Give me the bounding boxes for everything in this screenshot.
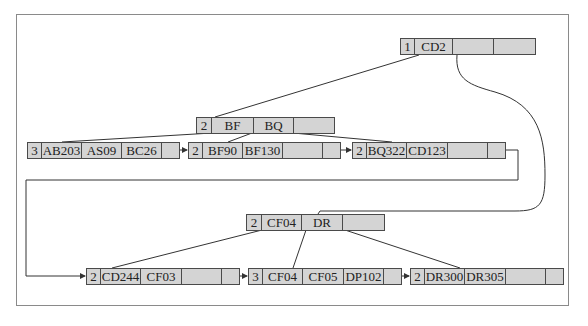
key: BQ322: [367, 143, 407, 158]
key: BF: [212, 118, 254, 133]
key: DR305: [465, 269, 506, 284]
next-pointer: [384, 269, 401, 284]
next-pointer: [323, 143, 340, 158]
key-count: 2: [87, 269, 101, 284]
key: [494, 39, 535, 54]
edge-root-right: [318, 55, 545, 214]
key: CD2: [415, 39, 453, 54]
key: BF130: [243, 143, 283, 158]
key: AS09: [82, 143, 122, 158]
leaf-node-5: 3 CF04 CF05 DP102: [248, 268, 402, 285]
key: BC26: [122, 143, 162, 158]
key: AB203: [42, 143, 82, 158]
key: CF04: [262, 215, 302, 230]
edge-right-leaf6: [345, 230, 460, 268]
internal-node-left: 2 BF BQ: [196, 117, 335, 134]
key: BF90: [203, 143, 243, 158]
key: [182, 269, 222, 284]
key-count: 2: [353, 143, 367, 158]
edge-right-leaf4: [112, 230, 262, 268]
edge-left-leaf3: [293, 133, 392, 142]
key: DP102: [344, 269, 384, 284]
key-count: 2: [411, 269, 425, 284]
leaf-node-6: 2 DR300 DR305: [410, 268, 564, 285]
key-count: 1: [401, 39, 415, 54]
next-pointer: [488, 143, 505, 158]
edge-left-leaf2: [228, 133, 252, 142]
root-node: 1 CD2: [400, 38, 536, 55]
key-count: 2: [189, 143, 203, 158]
key: CD244: [101, 269, 141, 284]
leaf-node-2: 2 BF90 BF130: [188, 142, 341, 159]
next-pointer: [546, 269, 563, 284]
key: CD123: [407, 143, 448, 158]
key: [448, 143, 488, 158]
internal-node-right: 2 CF04 DR: [246, 214, 385, 231]
leaf-node-3: 2 BQ322 CD123: [352, 142, 506, 159]
key: CF04: [263, 269, 303, 284]
leaf-node-1: 3 AB203 AS09 BC26: [27, 142, 180, 159]
next-pointer: [222, 269, 239, 284]
key: [294, 118, 334, 133]
key-count: 3: [249, 269, 263, 284]
edge-right-leaf5: [293, 230, 306, 268]
key: DR300: [425, 269, 465, 284]
key: [453, 39, 494, 54]
key: [506, 269, 546, 284]
edge-left-leaf1: [62, 133, 212, 142]
key-count: 2: [197, 118, 212, 133]
next-pointer: [162, 143, 179, 158]
edge-root-left: [215, 55, 419, 117]
key-count: 3: [28, 143, 42, 158]
key-count: 2: [247, 215, 262, 230]
key: CF05: [303, 269, 344, 284]
key: [343, 215, 384, 230]
key: CF03: [141, 269, 182, 284]
key: BQ: [254, 118, 294, 133]
key: DR: [302, 215, 343, 230]
leaf-node-4: 2 CD244 CF03: [86, 268, 240, 285]
key: [283, 143, 323, 158]
